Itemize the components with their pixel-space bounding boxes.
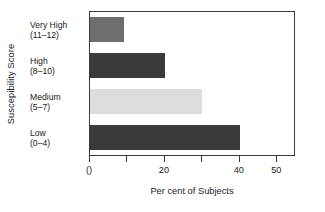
category-name: Low (30, 128, 86, 138)
x-axis-ticks (89, 155, 295, 162)
category-range: (8–10) (30, 66, 86, 76)
category-range: (5–7) (30, 102, 86, 112)
x-axis-tick-label: 20 (159, 165, 169, 175)
x-axis-tick (89, 155, 90, 162)
x-axis-tick (164, 155, 165, 162)
x-axis-tick-labels: ()204050 (89, 165, 295, 179)
x-axis-title: Per cent of Subjects (89, 186, 295, 196)
bar-row (90, 119, 294, 155)
bar-row (90, 12, 294, 48)
x-axis-tick-label: 50 (271, 165, 281, 175)
category-name: Medium (30, 92, 86, 102)
category-label-medium: Medium (5–7) (30, 84, 86, 120)
bar-medium (90, 89, 202, 114)
x-axis-tick-label: () (86, 165, 92, 175)
x-axis-tick (276, 155, 277, 162)
category-label-high: High (8–10) (30, 48, 86, 84)
bar-low (90, 125, 240, 150)
category-range: (11–12) (30, 30, 86, 40)
x-axis-tick-label: 40 (234, 165, 244, 175)
category-name: Very High (30, 20, 86, 30)
category-label-column: Very High (11–12) High (8–10) Medium (5–… (30, 12, 86, 156)
category-label-low: Low (0–4) (30, 120, 86, 156)
y-axis-title: Suscepibility Score (0, 0, 22, 168)
category-name: High (30, 56, 86, 66)
bar-chart-figure: Suscepibility Score Very High (11–12) Hi… (0, 0, 325, 212)
bar-very-high (90, 17, 124, 42)
bar-high (90, 53, 165, 78)
bar-row (90, 84, 294, 120)
bar-row (90, 48, 294, 84)
x-axis-tick (126, 155, 127, 162)
category-range: (0–4) (30, 138, 86, 148)
bar-series (90, 12, 294, 155)
y-axis-title-text: Suscepibility Score (6, 44, 16, 124)
x-axis-tick (201, 155, 202, 162)
category-label-very-high: Very High (11–12) (30, 12, 86, 48)
plot-area (89, 11, 295, 156)
x-axis-tick (239, 155, 240, 162)
